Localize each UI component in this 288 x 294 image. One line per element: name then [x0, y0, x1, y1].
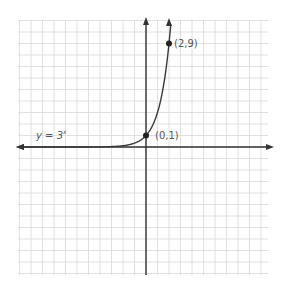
exponential-graph: (0,1) (2,9) y = 3x [0, 0, 288, 294]
function-label: y = 3x [35, 128, 67, 141]
y-axis [143, 17, 149, 275]
point-0-1 [143, 133, 149, 139]
y-axis-up-arrow-icon [143, 17, 149, 25]
curve-left-arrow-icon [16, 144, 24, 150]
point-0-1-label: (0,1) [155, 130, 179, 141]
x-axis-right-arrow-icon [266, 144, 274, 150]
point-2-9-label: (2,9) [174, 38, 198, 49]
curve-arrow-icon [166, 18, 172, 26]
point-2-9 [166, 41, 172, 47]
